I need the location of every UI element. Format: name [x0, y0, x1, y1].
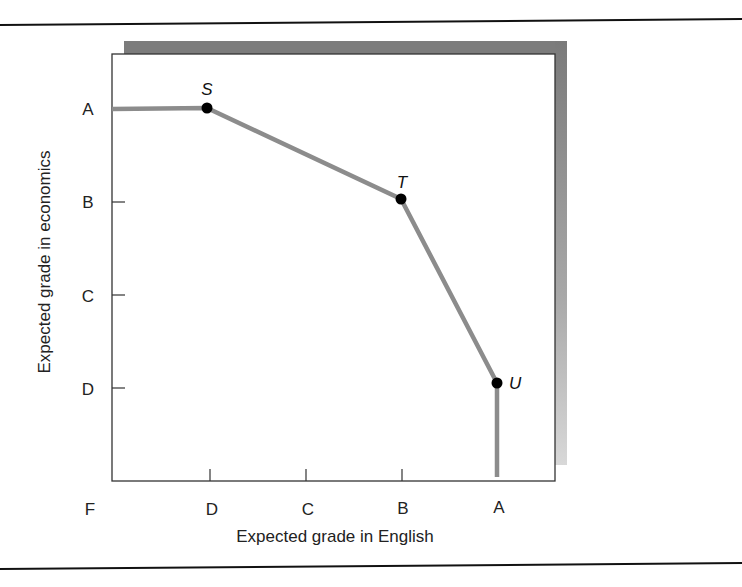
- point-t-label: T: [397, 173, 409, 192]
- frame-shadow-top: [124, 41, 567, 54]
- point-u: [492, 378, 503, 389]
- point-s: [202, 103, 213, 114]
- top-rule: [0, 19, 742, 25]
- y-tick-d: D: [82, 380, 94, 399]
- x-axis-title: Expected grade in English: [236, 527, 434, 546]
- frame-shadow-right: [555, 41, 567, 465]
- x-tick-c: C: [302, 500, 314, 519]
- x-tick-a: A: [493, 498, 505, 517]
- chart-canvas: S T U A B C D F D C B A Expected grade i…: [0, 0, 742, 587]
- y-axis-title: Expected grade in economics: [35, 150, 54, 373]
- y-tick-b: B: [82, 193, 93, 212]
- point-s-label: S: [201, 80, 213, 99]
- plot-frame: [112, 54, 555, 481]
- y-tick-c: C: [82, 287, 94, 306]
- point-t: [396, 194, 407, 205]
- x-tick-f: F: [85, 500, 95, 519]
- bottom-rule: [0, 563, 742, 569]
- x-tick-b: B: [397, 499, 408, 518]
- point-u-label: U: [509, 374, 522, 393]
- x-tick-d: D: [206, 500, 218, 519]
- y-tick-a: A: [82, 100, 94, 119]
